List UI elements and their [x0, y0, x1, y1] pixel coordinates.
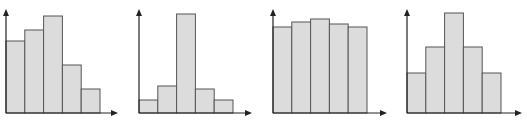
- y-axis-arrow-icon: [270, 9, 276, 16]
- histogram-bar: [44, 16, 63, 113]
- histogram-2: [136, 9, 252, 116]
- histogram-bar: [195, 89, 214, 113]
- histogram-bar: [482, 73, 501, 113]
- x-axis-arrow-icon: [515, 110, 522, 116]
- y-axis-arrow-icon: [136, 9, 142, 16]
- histogram-bar: [426, 47, 445, 113]
- y-axis-arrow-icon: [404, 9, 410, 16]
- histogram-bar: [214, 100, 233, 113]
- histogram-bar: [81, 89, 100, 113]
- histogram-panel: [0, 0, 527, 122]
- histogram-bar: [348, 27, 367, 113]
- histogram-bar: [311, 19, 330, 113]
- histogram-bar: [25, 30, 44, 113]
- histogram-bar: [62, 65, 81, 113]
- histogram-bar: [6, 41, 25, 113]
- histogram-bar: [445, 13, 464, 113]
- histogram-bar: [177, 14, 196, 113]
- histogram-bar: [407, 73, 426, 113]
- histogram-4: [404, 9, 522, 116]
- histogram-bar: [292, 22, 311, 113]
- histogram-bar: [273, 27, 292, 113]
- x-axis-arrow-icon: [380, 110, 387, 116]
- histogram-bar: [329, 24, 348, 113]
- histogram-bar: [139, 100, 158, 113]
- y-axis-arrow-icon: [3, 9, 9, 16]
- histogram-3: [270, 9, 387, 116]
- histogram-bar: [158, 86, 177, 113]
- x-axis-arrow-icon: [245, 110, 252, 116]
- histogram-1: [3, 9, 118, 116]
- histogram-bar: [463, 47, 482, 113]
- x-axis-arrow-icon: [111, 110, 118, 116]
